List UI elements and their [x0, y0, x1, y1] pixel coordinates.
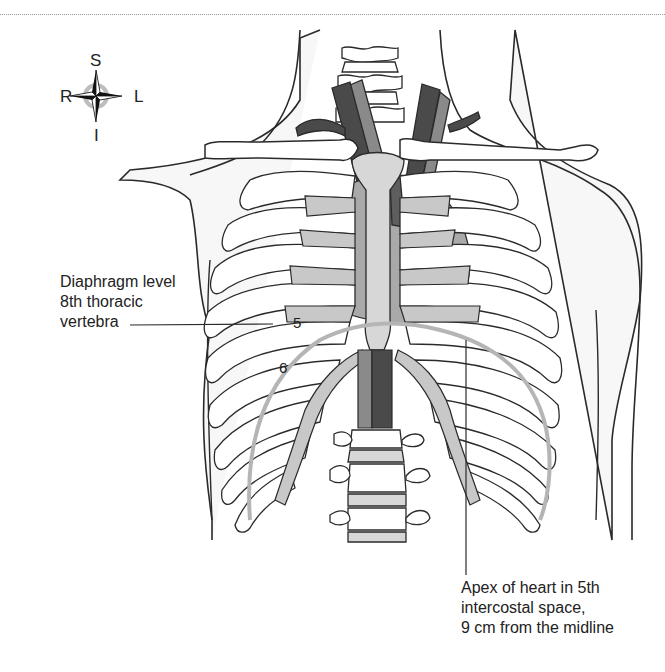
apex-label-line-1: Apex of heart in 5th [461, 578, 614, 598]
compass-inferior-label: I [94, 127, 99, 144]
diaphragm-label-line-1: Diaphragm level [60, 272, 176, 292]
lumbar-spine [330, 430, 430, 542]
descending-aorta [358, 350, 392, 428]
compass-rose-icon [70, 70, 122, 122]
compass-right-label: R [60, 88, 72, 105]
apex-label-line-3: 9 cm from the midline [461, 618, 614, 638]
apex-label-line-2: intercostal space, [461, 598, 614, 618]
diaphragm-label-line-2: 8th thoracic [60, 292, 176, 312]
thorax-illustration [0, 0, 665, 672]
rib-number-5: 5 [293, 313, 301, 333]
diaphragm-label-line-3: vertebra [60, 312, 176, 332]
rib-number-6: 6 [279, 358, 287, 378]
compass-left-label: L [134, 88, 143, 105]
apex-of-heart-label: Apex of heart in 5th intercostal space, … [461, 578, 614, 638]
diaphragm-level-label: Diaphragm level 8th thoracic vertebra [60, 272, 176, 332]
compass-superior-label: S [90, 52, 101, 69]
